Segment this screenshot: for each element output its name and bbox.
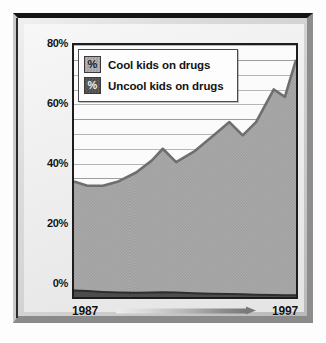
chart-figure: 80% 60% 40% 20% 0%	[0, 0, 326, 343]
legend-swatch-uncool-icon: %	[84, 77, 101, 94]
y-tick-0: 0%	[53, 277, 68, 289]
x-tick-start: 1987	[72, 304, 98, 318]
y-tick-60: 60%	[47, 97, 68, 109]
x-axis: 1987 1997	[24, 301, 304, 321]
legend-swatch-glyph: %	[85, 57, 100, 72]
gridline-0	[74, 297, 296, 298]
legend-label-cool: Cool kids on drugs	[108, 59, 210, 71]
chart-legend[interactable]: % Cool kids on drugs % Uncool kids on dr…	[78, 49, 238, 102]
legend-label-uncool: Uncool kids on drugs	[108, 80, 224, 92]
legend-item-uncool[interactable]: % Uncool kids on drugs	[84, 75, 231, 96]
plot-area: % Cool kids on drugs % Uncool kids on dr…	[72, 43, 298, 299]
legend-item-cool[interactable]: % Cool kids on drugs	[84, 54, 231, 75]
x-tick-end: 1997	[272, 304, 298, 318]
y-tick-40: 40%	[47, 157, 68, 169]
legend-swatch-glyph: %	[85, 78, 100, 93]
y-axis: 80% 60% 40% 20% 0%	[24, 24, 72, 312]
x-axis-arrow-icon	[116, 307, 256, 316]
legend-swatch-cool-icon: %	[84, 56, 101, 73]
y-tick-20: 20%	[47, 217, 68, 229]
y-tick-80: 80%	[47, 37, 68, 49]
